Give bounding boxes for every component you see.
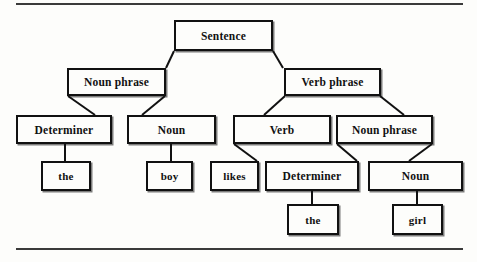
tree-node-label: Verb xyxy=(270,124,295,136)
tree-node-likes: likes xyxy=(210,161,259,191)
tree-node-vp: Verb phrase xyxy=(284,68,381,96)
tree-node-boy: boy xyxy=(146,161,193,191)
tree-edge-vp-to-verb xyxy=(264,96,285,115)
tree-node-np1: Noun phrase xyxy=(67,68,166,96)
tree-node-the1: the xyxy=(41,161,91,191)
tree-edge-s-to-np1 xyxy=(166,51,174,68)
tree-node-label: likes xyxy=(223,170,245,182)
tree-node-s: Sentence xyxy=(174,20,273,51)
tree-node-label: the xyxy=(58,170,73,182)
tree-node-label: Determiner xyxy=(35,124,94,136)
tree-node-label: the xyxy=(305,214,320,226)
tree-edge-np2-to-noun2 xyxy=(409,144,432,161)
syntax-tree-figure: SentenceNoun phraseVerb phraseDeterminer… xyxy=(0,0,477,262)
tree-node-noun1: Noun xyxy=(127,115,216,144)
tree-edge-np1-to-noun1 xyxy=(142,96,165,115)
tree-node-label: Noun phrase xyxy=(352,124,417,136)
tree-node-label: Verb phrase xyxy=(301,76,363,88)
tree-node-verb: Verb xyxy=(233,115,331,144)
tree-node-det2: Determiner xyxy=(265,161,359,191)
tree-node-label: Noun phrase xyxy=(84,76,149,88)
tree-node-label: Determiner xyxy=(283,170,342,182)
tree-edge-np1-to-det1 xyxy=(68,96,95,115)
tree-node-noun2: Noun xyxy=(368,161,463,191)
tree-node-girl: girl xyxy=(392,204,443,235)
tree-node-label: Sentence xyxy=(201,30,246,42)
tree-node-label: Noun xyxy=(402,170,430,182)
tree-edge-vp-to-np2 xyxy=(380,96,404,115)
tree-node-det1: Determiner xyxy=(16,115,112,144)
tree-node-label: girl xyxy=(409,214,426,226)
tree-edge-verb-to-likes xyxy=(234,144,257,161)
tree-node-label: Noun xyxy=(158,124,186,136)
tree-edge-np2-to-det2 xyxy=(337,144,357,161)
tree-node-label: boy xyxy=(161,170,179,182)
tree-node-the2: the xyxy=(287,204,339,235)
tree-node-np2: Noun phrase xyxy=(336,115,433,144)
tree-edge-s-to-vp xyxy=(273,51,283,68)
